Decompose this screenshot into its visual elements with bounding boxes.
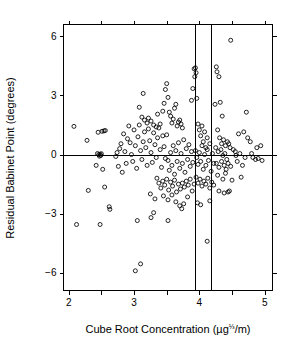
- x-tick-label: 3: [131, 297, 137, 308]
- x-tick-label: 5: [262, 297, 268, 308]
- y-tick-label: −6: [45, 267, 57, 278]
- y-tick-label: −3: [45, 208, 57, 219]
- y-axis-title: Residual Babinet Point (degrees): [4, 77, 16, 238]
- scatter-plot: 2345−6−3036 Cube Root Concentration (µg⅓…: [0, 0, 291, 342]
- y-tick-label: 6: [51, 31, 57, 42]
- y-tick-label: 3: [51, 90, 57, 101]
- y-tick-label: 0: [51, 149, 57, 160]
- x-tick-label: 4: [197, 297, 203, 308]
- chart-figure: 2345−6−3036 Cube Root Concentration (µg⅓…: [0, 0, 291, 342]
- x-tick-label: 2: [66, 297, 72, 308]
- x-axis-title: Cube Root Concentration (µg⅓/m): [85, 323, 250, 335]
